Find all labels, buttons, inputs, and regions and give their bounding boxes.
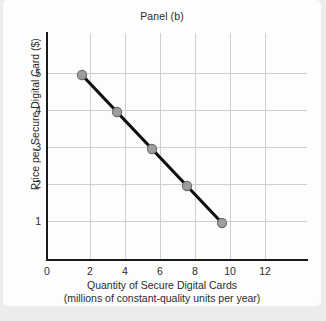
- data-point-marker: [147, 144, 156, 153]
- data-point-marker: [217, 218, 226, 227]
- data-point-marker: [112, 107, 121, 116]
- data-point-marker: [77, 70, 86, 79]
- data-series-svg: [3, 0, 321, 306]
- data-point-marker: [182, 181, 191, 190]
- chart-card: Panel (b) 5 4 3 2 1 0 2 4 6 8 1: [3, 0, 321, 306]
- page-background: Panel (b) 5 4 3 2 1 0 2 4 6 8 1: [0, 0, 326, 321]
